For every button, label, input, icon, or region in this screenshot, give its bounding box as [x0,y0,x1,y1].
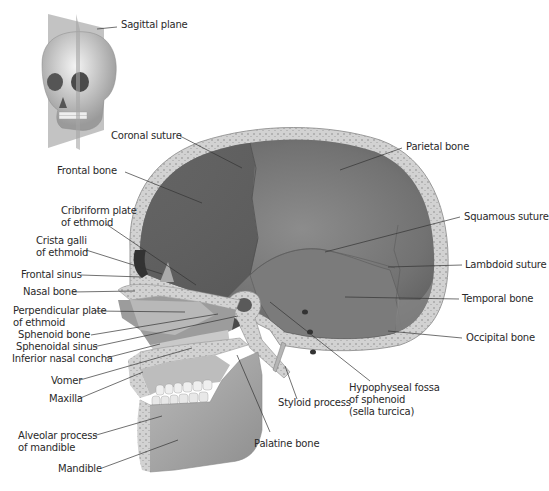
frontal-bone-region [140,143,258,300]
label-hypophyseal-line1: Hypophyseal fossa [349,382,440,394]
label-styloid-process: Styloid process [278,397,351,409]
label-parietal-bone: Parietal bone [406,141,469,153]
label-cribriform-plate: Cribriform plate of ethmoid [61,205,137,229]
label-sagittal-plane: Sagittal plane [121,19,187,31]
label-lambdoid-suture: Lambdoid suture [465,259,546,271]
label-cribriform-line2: of ethmoid [61,217,137,229]
label-mandible: Mandible [58,463,102,475]
label-maxilla: Maxilla [49,393,83,405]
label-occipital-bone: Occipital bone [466,332,535,344]
label-alveolar-process: Alveolar process of mandible [18,430,97,454]
label-vomer: Vomer [51,375,82,387]
label-perpendicular-line1: Perpendicular plate [13,305,106,317]
label-temporal-bone: Temporal bone [462,293,533,305]
label-inferior-nasal-concha: Inferior nasal concha [12,353,113,365]
label-coronal-suture: Coronal suture [111,130,182,142]
label-perpendicular-plate: Perpendicular plate of ethmoid [13,305,106,329]
label-perpendicular-line2: of ethmoid [13,317,106,329]
label-hypophyseal-line3: (sella turcica) [349,406,440,418]
label-sphenoid-bone: Sphenoid bone [18,329,90,341]
label-palatine-bone: Palatine bone [254,438,319,450]
label-nasal-bone: Nasal bone [23,286,77,298]
label-crista-galli: Crista galli of ethmoid [36,235,88,259]
label-hypophyseal-fossa: Hypophyseal fossa of sphenoid (sella tur… [349,382,440,418]
label-crista-line2: of ethmoid [36,247,88,259]
label-sphenoidal-sinus: Sphenoidal sinus [16,341,98,353]
label-alveolar-line2: of mandible [18,442,97,454]
inset-skull [42,14,116,150]
label-alveolar-line1: Alveolar process [18,430,97,442]
label-squamous-suture: Squamous suture [464,211,549,223]
label-crista-line1: Crista galli [36,235,88,247]
label-cribriform-line1: Cribriform plate [61,205,137,217]
label-hypophyseal-line2: of sphenoid [349,394,440,406]
label-frontal-sinus: Frontal sinus [21,269,82,281]
leader-styloid-process [285,366,297,399]
label-frontal-bone: Frontal bone [57,165,117,177]
